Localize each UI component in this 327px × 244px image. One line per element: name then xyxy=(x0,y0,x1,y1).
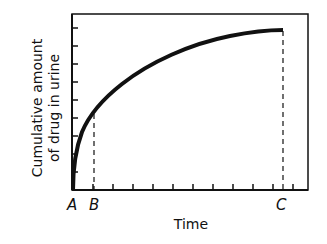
y-axis-label-line-1: Cumulative amount xyxy=(29,38,45,177)
chart: A B C Time Cumulative amount of drug in … xyxy=(0,0,327,244)
data-curve xyxy=(73,30,283,190)
y-axis-label-line-2: of drug in urine xyxy=(46,54,62,162)
plot-frame xyxy=(72,14,308,190)
point-label-c: C xyxy=(276,196,287,214)
point-label-a: A xyxy=(66,196,77,214)
x-axis-label: Time xyxy=(173,216,208,232)
point-label-b: B xyxy=(89,196,99,214)
